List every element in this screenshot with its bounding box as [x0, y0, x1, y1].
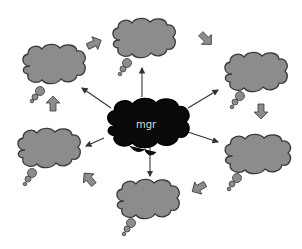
block-arrow-4-icon	[189, 178, 209, 198]
block-arrow-6-icon	[46, 96, 60, 111]
block-arrow-5-icon	[79, 169, 99, 189]
block-arrow-1-icon	[85, 34, 105, 53]
cloud-right-lower	[225, 134, 290, 190]
connector-right-upper	[188, 90, 218, 108]
cloud-top	[113, 18, 175, 75]
cloud-bottom	[117, 179, 179, 235]
center-label: mgr	[136, 119, 156, 130]
cloud-right-upper	[225, 52, 287, 108]
connector-top-left	[82, 88, 111, 108]
cloud-top-left	[23, 44, 85, 102]
block-arrow-3-icon	[254, 104, 268, 119]
diagram-canvas: mgr	[0, 0, 302, 249]
block-arrow-2-icon	[196, 29, 217, 50]
cloud-left-lower	[18, 128, 80, 185]
connector-right-lower	[188, 132, 218, 142]
connector-left-lower	[86, 138, 104, 146]
